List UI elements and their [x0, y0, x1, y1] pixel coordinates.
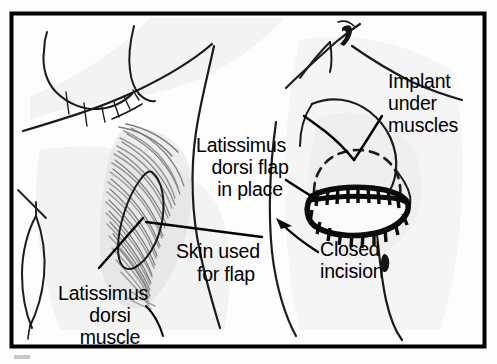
label-ldm-line3: muscle	[80, 326, 141, 348]
label-flap-line3: in place	[217, 178, 283, 200]
medical-illustration: Latissimus dorsi muscle Skin used for fl…	[0, 0, 497, 364]
label-flap-line2: dorsi flap	[211, 156, 288, 178]
label-skin-line2: for flap	[197, 263, 255, 285]
label-implant-line3: muscles	[388, 114, 459, 136]
label-incision-line1: Closed	[320, 238, 380, 260]
label-implant-line2: under	[388, 92, 438, 114]
label-ldm-line1: Latissimus	[58, 282, 149, 304]
scan-artifact	[14, 355, 30, 359]
label-flap-line1: Latissimus	[196, 134, 287, 156]
label-ldm-line2: dorsi	[89, 304, 130, 326]
label-closed-incision: Closed incision	[320, 238, 383, 282]
label-implant-line1: Implant	[388, 70, 451, 92]
label-incision-line2: incision	[320, 260, 383, 282]
figure-canvas: Latissimus dorsi muscle Skin used for fl…	[0, 0, 497, 364]
label-skin-line1: Skin used	[176, 240, 260, 262]
